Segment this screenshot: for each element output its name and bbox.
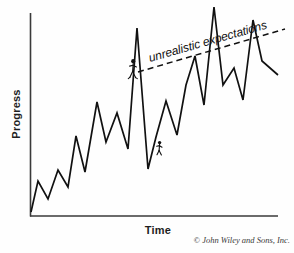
copyright-credit: © John Wiley and Sons, Inc. [194, 235, 290, 245]
progress-vs-time-figure: unrealistic expectations Progress Time ©… [0, 0, 294, 253]
y-axis-label: Progress [10, 89, 22, 138]
chart-canvas: unrealistic expectations Progress Time ©… [0, 0, 294, 253]
runner-figure-valley-icon [157, 141, 162, 155]
x-axis-label: Time [145, 224, 171, 236]
